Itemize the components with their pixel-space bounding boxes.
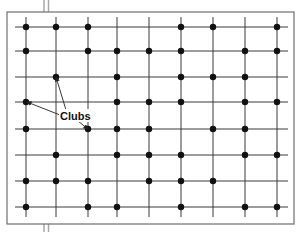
club-dot bbox=[178, 178, 184, 184]
club-dot bbox=[178, 74, 184, 80]
club-dot bbox=[53, 178, 59, 184]
club-dot bbox=[210, 24, 216, 30]
club-dot bbox=[23, 178, 29, 184]
clubs-grid-diagram: Clubs bbox=[0, 0, 306, 232]
club-dot bbox=[178, 99, 184, 105]
club-dot bbox=[114, 126, 120, 132]
club-dot bbox=[23, 24, 29, 30]
club-dot bbox=[114, 99, 120, 105]
club-dot bbox=[23, 48, 29, 54]
club-dot bbox=[85, 204, 91, 210]
club-dot bbox=[242, 48, 248, 54]
club-dot bbox=[114, 152, 120, 158]
club-dot bbox=[242, 99, 248, 105]
club-dot bbox=[178, 204, 184, 210]
club-dot bbox=[146, 126, 152, 132]
club-dot bbox=[242, 126, 248, 132]
club-dot bbox=[274, 99, 280, 105]
club-dot bbox=[146, 178, 152, 184]
club-dot bbox=[23, 204, 29, 210]
club-dot bbox=[242, 204, 248, 210]
club-dot bbox=[146, 48, 152, 54]
clubs-label: Clubs bbox=[60, 110, 91, 122]
club-dot bbox=[274, 48, 280, 54]
club-dot bbox=[210, 74, 216, 80]
club-dot bbox=[23, 126, 29, 132]
club-dot bbox=[85, 178, 91, 184]
club-dot bbox=[178, 24, 184, 30]
club-dot bbox=[114, 204, 120, 210]
club-dot bbox=[85, 24, 91, 30]
club-dot bbox=[114, 74, 120, 80]
club-dot bbox=[53, 152, 59, 158]
club-dot bbox=[146, 99, 152, 105]
club-dot bbox=[114, 48, 120, 54]
club-dot bbox=[210, 178, 216, 184]
club-dot bbox=[146, 152, 152, 158]
club-dot bbox=[85, 48, 91, 54]
club-dot bbox=[242, 74, 248, 80]
background bbox=[0, 0, 306, 232]
club-dot bbox=[274, 24, 280, 30]
club-dot bbox=[210, 126, 216, 132]
club-dot bbox=[274, 204, 280, 210]
club-dot bbox=[53, 24, 59, 30]
club-dot bbox=[178, 48, 184, 54]
club-dot bbox=[242, 152, 248, 158]
club-dot bbox=[178, 152, 184, 158]
club-dot bbox=[274, 152, 280, 158]
club-dot bbox=[23, 99, 29, 105]
